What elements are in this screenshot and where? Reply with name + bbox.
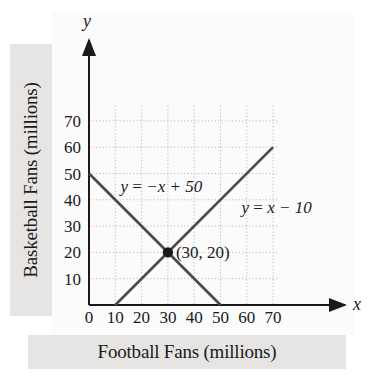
y-axis-name: y	[81, 11, 91, 31]
x-tick-label: 0	[85, 308, 94, 327]
equation-label: y = −x + 50	[119, 177, 203, 196]
y-tick-label: 20	[64, 243, 81, 262]
y-tick-label: 60	[64, 138, 81, 157]
intersection-label: (30, 20)	[176, 243, 230, 262]
x-tick-label: 60	[238, 308, 255, 327]
x-tick-label: 40	[186, 308, 203, 327]
x-tick-label: 10	[107, 308, 124, 327]
equation-labels: y = −x + 50y = x − 10	[119, 177, 313, 217]
y-tick-label: 70	[64, 112, 81, 131]
x-tick-label: 20	[133, 308, 150, 327]
x-tick-label: 70	[265, 308, 282, 327]
x-tick-label: 50	[212, 308, 229, 327]
tick-labels: 01020304050607010203040506070	[64, 112, 282, 327]
x-axis-name: x	[352, 294, 361, 314]
plot-svg: 01020304050607010203040506070 (30, 20) x…	[0, 0, 371, 383]
x-tick-label: 30	[159, 308, 176, 327]
chart-figure: Basketball Fans (millions) Football Fans…	[0, 0, 371, 383]
y-tick-label: 40	[64, 191, 81, 210]
y-tick-label: 30	[64, 217, 81, 236]
equation-label: y = x − 10	[240, 198, 313, 217]
y-tick-label: 50	[64, 165, 81, 184]
axes	[89, 40, 345, 305]
axis-name-labels: xy	[81, 11, 361, 314]
intersection-dot	[163, 247, 173, 257]
y-tick-label: 10	[64, 270, 81, 289]
